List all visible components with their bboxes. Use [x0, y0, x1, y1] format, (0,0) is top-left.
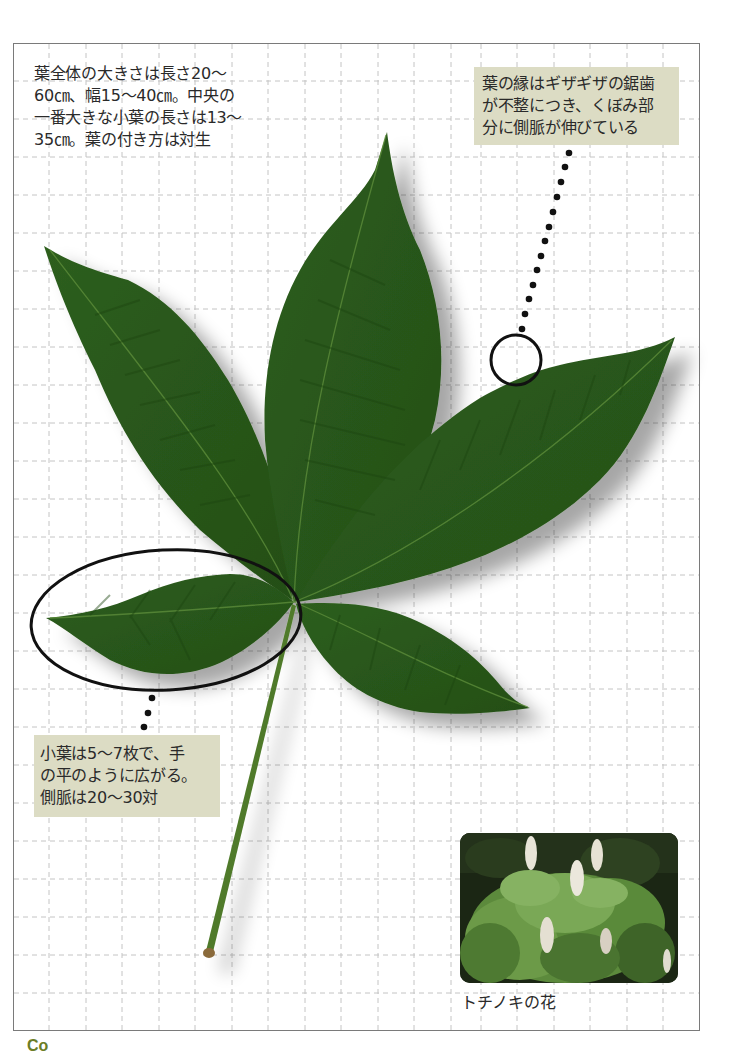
overall-size-note: 葉全体の大きさは長さ20～ 60㎝、幅15～40㎝。中央の 一番大きな小葉の長さ… [34, 63, 304, 151]
corner-mark: Co [27, 1038, 48, 1054]
margin-leader-dots [519, 150, 573, 333]
leaflet-lower-left [46, 574, 294, 674]
margin-highlight-circle [491, 335, 541, 385]
leaf-margin-callout: 葉の縁はギザギザの鋸歯 が不整につき、くぼみ部 分に側脈が伸びている [474, 67, 679, 145]
flower-caption: トチノキの花 [461, 989, 555, 1013]
flower-photo [460, 833, 678, 983]
flower-photo-image [460, 833, 678, 983]
leaflets-callout: 小葉は5～7枚で、手 の平のように広がる。 側脈は20～30対 [34, 735, 220, 817]
leaflet-upper-left [44, 246, 292, 600]
stem-base [203, 948, 215, 958]
